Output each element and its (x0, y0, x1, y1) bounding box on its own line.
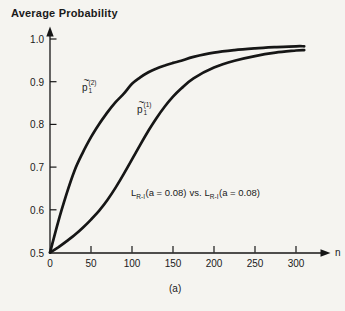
x-axis-arrow-icon (321, 249, 331, 256)
comparison-annotation: LR-I(a = 0.08)vs.LR-I(a = 0.08) (131, 187, 260, 198)
lrt-label-right: LR-I(a = 0.08) (205, 187, 260, 198)
x-tick-label: 50 (85, 258, 96, 269)
curve-label-p2: ~p(2)1 (82, 82, 97, 96)
p-tilde-symbol: ~p (137, 104, 143, 115)
y-tick-label: 0.8 (22, 119, 44, 130)
y-tick-label: 0.6 (22, 204, 44, 215)
y-axis-arrow-icon (46, 27, 53, 37)
l-subscript: R-I (210, 193, 219, 200)
subscript: 1 (89, 88, 93, 95)
figure-panel: Average Probability 0.50.60.70.80.91.005… (0, 0, 345, 311)
y-tick-label: 1.0 (22, 34, 44, 45)
y-tick-label: 0.7 (22, 162, 44, 173)
vs-text: vs. (189, 187, 201, 198)
subfigure-caption: (a) (169, 283, 181, 294)
superscript: (1) (144, 102, 152, 109)
x-tick-label: 150 (165, 258, 182, 269)
x-axis-name: n (335, 247, 341, 258)
y-tick-label: 0.5 (22, 247, 44, 258)
l-args: (a = 0.08) (145, 187, 186, 198)
x-tick-label: 0 (47, 258, 53, 269)
x-tick-label: 300 (288, 258, 305, 269)
lrt-label-left: LR-I(a = 0.08) (131, 187, 186, 198)
subscript: 1 (144, 110, 148, 117)
x-tick-label: 200 (206, 258, 223, 269)
y-tick-label: 0.9 (22, 76, 44, 87)
p-tilde-symbol: ~p (82, 82, 88, 93)
x-tick-label: 250 (247, 258, 264, 269)
x-tick-label: 100 (124, 258, 141, 269)
y-axis-title: Average Probability (11, 7, 118, 19)
l-subscript: R-I (136, 193, 145, 200)
script-stack: (2)1 (89, 80, 97, 94)
curve-label-p1: ~p(1)1 (137, 104, 152, 118)
l-args: (a = 0.08) (219, 187, 260, 198)
superscript: (2) (89, 80, 97, 87)
script-stack: (1)1 (144, 102, 152, 116)
